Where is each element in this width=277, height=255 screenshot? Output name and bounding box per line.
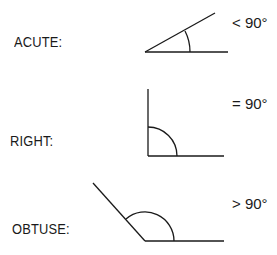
right-angle-shape: [148, 89, 224, 156]
angle-drawings: [0, 0, 277, 255]
acute-angle-shape: [145, 13, 228, 52]
obtuse-angle-shape: [93, 183, 224, 241]
